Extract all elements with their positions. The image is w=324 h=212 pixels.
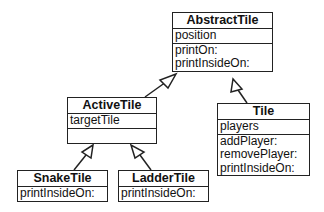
- class-name: AbstractTile: [173, 13, 272, 29]
- method: printInsideOn:: [220, 162, 307, 176]
- class-snake-tile: SnakeTile printInsideOn:: [17, 170, 108, 202]
- attribute: targetTile: [70, 114, 154, 128]
- method: removePlayer:: [220, 148, 307, 162]
- class-name: LadderTile: [119, 171, 208, 187]
- attribute: position: [175, 29, 270, 43]
- inheritance-arrow-icon: [160, 74, 176, 88]
- attributes-section: players: [218, 120, 309, 135]
- methods-section: printInsideOn:: [119, 187, 208, 201]
- class-tile: Tile players addPlayer: removePlayer: pr…: [217, 103, 310, 176]
- attributes-section: position: [173, 29, 272, 44]
- class-active-tile: ActiveTile targetTile: [67, 97, 157, 144]
- attributes-section: targetTile: [68, 114, 156, 129]
- inheritance-arrow-icon: [82, 145, 93, 158]
- class-abstract-tile: AbstractTile position printOn: printInsi…: [172, 12, 273, 72]
- method: printOn:: [175, 44, 270, 58]
- class-ladder-tile: LadderTile printInsideOn:: [118, 170, 209, 202]
- attribute: players: [220, 120, 307, 134]
- class-name: ActiveTile: [68, 98, 156, 114]
- inheritance-arrow-icon: [231, 79, 242, 92]
- class-name: Tile: [218, 104, 309, 120]
- class-name: SnakeTile: [18, 171, 107, 187]
- methods-section: [68, 129, 156, 143]
- methods-section: printInsideOn:: [18, 187, 107, 201]
- inheritance-arrow-icon: [131, 145, 144, 158]
- method: printInsideOn:: [175, 57, 270, 71]
- method: printInsideOn:: [20, 187, 105, 201]
- method: printInsideOn:: [121, 187, 206, 201]
- method: addPlayer:: [220, 135, 307, 149]
- methods-section: printOn: printInsideOn:: [173, 44, 272, 71]
- methods-section: addPlayer: removePlayer: printInsideOn:: [218, 135, 309, 176]
